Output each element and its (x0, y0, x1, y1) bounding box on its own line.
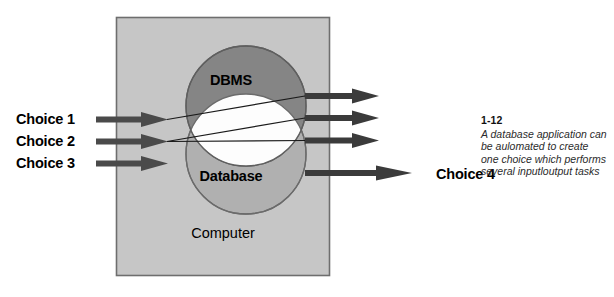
annotation-number: 1-12 (481, 114, 609, 127)
annotation-text: A database application can be aulomated … (481, 128, 609, 178)
database-circle-label: Database (0, 168, 538, 184)
annotation-line-4: several inputloutput tasks (481, 165, 609, 177)
annotation-line-3: one choice which performs (481, 153, 609, 165)
annotation-line-1: A database application can (481, 128, 609, 140)
computer-container-label: Computer (0, 225, 530, 241)
annotation-block: 1-12 A database application can be aulom… (481, 114, 609, 178)
diagram-root: Choice 1 Choice 2 Choice 3 Choice 4 DBMS… (0, 0, 614, 297)
annotation-line-2: be aulomated to create (481, 140, 609, 152)
input-label-choice-1: Choice 1 (16, 111, 75, 127)
input-label-choice-2: Choice 2 (16, 133, 75, 149)
dbms-circle-label: DBMS (0, 72, 538, 88)
